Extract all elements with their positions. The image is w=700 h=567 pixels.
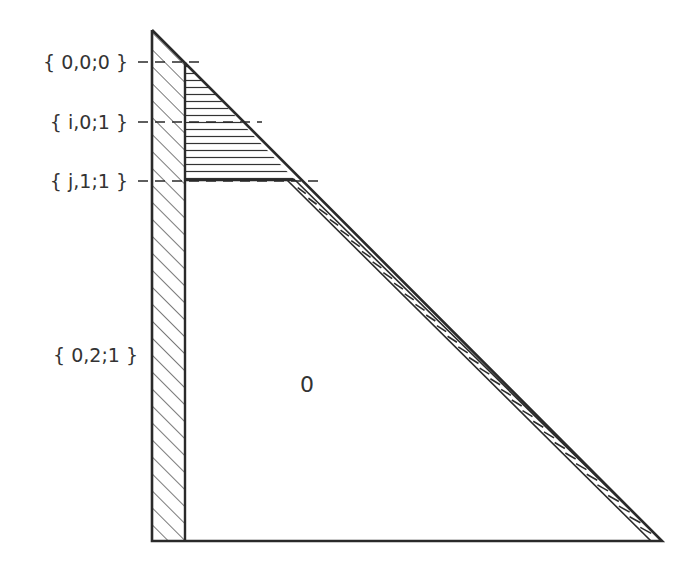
level-label-0: { 0,0;0 } [43,51,128,73]
level-label-3: { 0,2;1 } [53,344,138,366]
triangle-outline [152,30,662,541]
interior-region-label: 0 [300,372,314,397]
level-label-2: { j,1;1 } [50,170,128,192]
level-label-1: { i,0;1 } [50,111,128,133]
hypotenuse-band-region [287,180,662,541]
level-labels: { 0,0;0 } { i,0;1 } { j,1;1 } { 0,2;1 } [43,51,138,366]
triangle-diagram: { 0,0;0 } { i,0;1 } { j,1;1 } { 0,2;1 } … [0,0,700,567]
